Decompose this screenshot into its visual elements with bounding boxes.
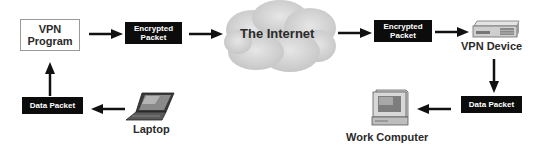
vpn-program-node: VPN Program — [20, 19, 80, 51]
vpn-program-label-line1: VPN — [27, 23, 72, 35]
arrow-right-icon — [435, 26, 469, 38]
encrypted-packet-right: Encrypted Packet — [374, 20, 432, 42]
internet-label: The Internet — [240, 26, 314, 41]
encrypted-packet-right-line2: Packet — [383, 31, 422, 40]
laptop-icon — [124, 92, 176, 122]
arrow-right-icon — [338, 27, 372, 39]
arrow-left-icon — [417, 103, 451, 115]
arrow-up-icon — [44, 62, 56, 96]
encrypted-packet-left: Encrypted Packet — [125, 22, 182, 44]
encrypted-packet-left-line1: Encrypted — [134, 24, 173, 33]
data-packet-right: Data Packet — [461, 96, 522, 113]
data-packet-left: Data Packet — [22, 97, 83, 114]
laptop-label: Laptop — [133, 123, 170, 135]
desktop-computer-icon — [370, 89, 412, 129]
arrow-right-icon — [189, 28, 223, 40]
vpn-program-label-line2: Program — [27, 35, 72, 47]
arrow-down-icon — [488, 59, 500, 93]
arrow-left-icon — [91, 103, 125, 115]
arrow-right-icon — [89, 28, 123, 40]
encrypted-packet-right-line1: Encrypted — [383, 22, 422, 31]
encrypted-packet-left-line2: Packet — [134, 33, 173, 42]
work-computer-label: Work Computer — [346, 131, 428, 143]
network-device-icon — [471, 20, 521, 39]
vpn-device-label: VPN Device — [461, 40, 522, 52]
